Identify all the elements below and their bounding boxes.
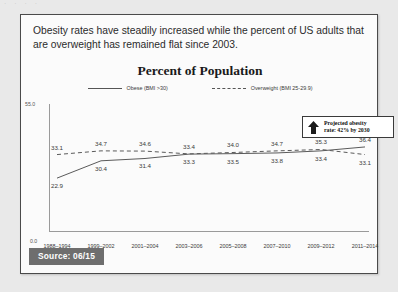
projection-callout-text: Projected obesity rate: 42% by 2030 — [324, 120, 370, 135]
x-axis-tick: 2001–2004 — [132, 243, 159, 249]
legend-label-obese: Obese (BMI >30) — [127, 85, 168, 91]
headline-text: Obesity rates have steadily increased wh… — [33, 24, 365, 51]
line-obese — [57, 147, 365, 178]
data-label-below: 33.5 — [227, 158, 239, 165]
data-label-below: 33.4 — [315, 155, 327, 162]
data-label-above: 33.4 — [183, 143, 195, 150]
data-label-below: 33.8 — [271, 157, 283, 164]
data-label-above: 34.7 — [95, 140, 107, 147]
x-axis-tick: 2011–2014 — [352, 243, 379, 249]
data-label-below: 22.9 — [51, 182, 63, 189]
legend-line-solid-icon — [88, 88, 122, 89]
chart-legend: Obese (BMI >30) Overweight (BMI 25-29.9) — [21, 85, 379, 91]
legend-line-dashed-icon — [212, 88, 246, 89]
x-axis-tick: 2007–2010 — [264, 243, 291, 249]
legend-item-obese[interactable]: Obese (BMI >30) — [88, 85, 168, 91]
source-badge[interactable]: Source: 06/15 — [29, 248, 104, 265]
chart-title: Percent of Population — [21, 63, 379, 79]
slide-card: Obesity rates have steadily increased wh… — [20, 14, 378, 274]
data-label-above: 34.0 — [227, 141, 239, 148]
data-label-above: 34.6 — [139, 140, 151, 147]
data-label-below: 33.1 — [359, 159, 371, 166]
x-axis-tick: 2003–2006 — [176, 243, 203, 249]
projection-line-2: rate: 42% by 2030 — [324, 127, 370, 135]
data-label-below: 31.4 — [139, 162, 151, 169]
legend-item-overweight[interactable]: Overweight (BMI 25-29.9) — [212, 85, 313, 91]
projection-line-1: Projected obesity — [324, 120, 370, 128]
plot-area: 55.0 0.0 33.134.734.633.434.034.735.336.… — [21, 101, 379, 241]
projection-callout: Projected obesity rate: 42% by 2030 — [302, 116, 394, 138]
data-label-above: 35.3 — [315, 138, 327, 145]
up-arrow-icon — [307, 120, 320, 135]
legend-label-overweight: Overweight (BMI 25-29.9) — [251, 85, 313, 91]
x-axis-tick: 2009–2012 — [308, 243, 335, 249]
cropped-page-text-sliver: · · · · — [0, 0, 398, 12]
data-label-below: 30.4 — [95, 165, 107, 172]
data-label-above: 33.1 — [51, 144, 63, 151]
data-label-below: 33.3 — [183, 158, 195, 165]
data-label-above: 34.7 — [271, 140, 283, 147]
x-axis-tick: 2005–2008 — [220, 243, 247, 249]
